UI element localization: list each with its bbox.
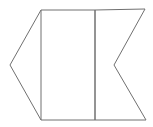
diagram-canvas bbox=[0, 0, 153, 127]
left-panel bbox=[41, 10, 95, 120]
left-triangle bbox=[10, 10, 41, 120]
right-notched-panel bbox=[95, 9, 146, 120]
